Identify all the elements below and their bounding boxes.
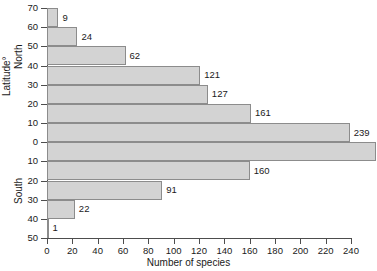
bar-value-label: 22 bbox=[79, 204, 90, 214]
bar bbox=[47, 142, 376, 161]
x-axis-tick-label: 160 bbox=[242, 246, 258, 256]
y-axis-tick bbox=[41, 66, 47, 67]
bar bbox=[47, 27, 77, 46]
bar bbox=[47, 46, 126, 65]
x-axis-tick-label: 180 bbox=[267, 246, 283, 256]
x-axis-tick-label: 100 bbox=[166, 246, 182, 256]
x-axis-tick bbox=[275, 239, 276, 244]
y-axis-tick bbox=[41, 161, 47, 162]
y-axis-tick bbox=[41, 46, 47, 47]
x-axis-tick-label: 240 bbox=[343, 246, 359, 256]
x-axis-tick-label: 200 bbox=[292, 246, 308, 256]
x-axis-tick bbox=[123, 239, 124, 244]
x-axis-tick-label: 80 bbox=[143, 246, 154, 256]
y-axis-tick bbox=[41, 123, 47, 124]
y-axis-tick-label: 60 bbox=[27, 22, 38, 32]
y-axis-tick bbox=[41, 104, 47, 105]
y-axis-tick-label: 40 bbox=[27, 61, 38, 71]
x-axis-tick-label: 120 bbox=[191, 246, 207, 256]
x-axis-tick bbox=[47, 239, 48, 244]
x-axis-tick bbox=[199, 239, 200, 244]
bar-value-label: 239 bbox=[354, 128, 370, 138]
bar bbox=[47, 85, 208, 104]
y-axis-tick-label: 10 bbox=[27, 156, 38, 166]
x-axis-tick bbox=[224, 239, 225, 244]
bar-value-label: 9 bbox=[62, 13, 67, 23]
bar-value-label: 91 bbox=[166, 185, 177, 195]
x-axis-tick bbox=[326, 239, 327, 244]
bar bbox=[47, 66, 200, 85]
x-axis-tick-label: 140 bbox=[216, 246, 232, 256]
y-axis-tick-label: 70 bbox=[27, 3, 38, 13]
bar bbox=[47, 219, 49, 238]
x-axis-tick bbox=[174, 239, 175, 244]
y-axis-tick-label: 40 bbox=[27, 214, 38, 224]
bar-value-label: 127 bbox=[212, 89, 228, 99]
bar bbox=[47, 181, 162, 200]
hemisphere-label-north: North bbox=[14, 45, 24, 69]
bar-value-label: 160 bbox=[254, 166, 270, 176]
y-axis-tick bbox=[41, 181, 47, 182]
x-axis-title: Number of species bbox=[0, 258, 377, 268]
y-axis-tick-label: 30 bbox=[27, 195, 38, 205]
y-axis-tick bbox=[41, 85, 47, 86]
y-axis-tick-label: 10 bbox=[27, 118, 38, 128]
x-axis-tick bbox=[98, 239, 99, 244]
bar-value-label: 24 bbox=[81, 32, 92, 42]
y-axis-tick-label: 30 bbox=[27, 80, 38, 90]
y-axis-tick bbox=[41, 142, 47, 143]
x-axis-tick bbox=[351, 239, 352, 244]
x-axis-tick bbox=[300, 239, 301, 244]
x-axis-tick-label: 60 bbox=[118, 246, 129, 256]
bar bbox=[47, 104, 251, 123]
y-axis-tick-label: 50 bbox=[27, 233, 38, 243]
y-axis-tick-label: 20 bbox=[27, 99, 38, 109]
bar-value-label: 62 bbox=[130, 51, 141, 61]
x-axis-tick bbox=[72, 239, 73, 244]
y-axis-tick bbox=[41, 200, 47, 201]
bar bbox=[47, 161, 250, 180]
bar-value-label: 1 bbox=[53, 223, 58, 233]
y-axis-tick-label: 20 bbox=[27, 176, 38, 186]
x-axis-tick-label: 40 bbox=[92, 246, 103, 256]
x-axis-tick-label: 20 bbox=[67, 246, 78, 256]
plot-area: 9246212112716123926016091221 bbox=[47, 8, 351, 238]
y-axis-tick bbox=[41, 8, 47, 9]
x-axis-tick-label: 220 bbox=[318, 246, 334, 256]
bar-value-label: 161 bbox=[255, 108, 271, 118]
bar bbox=[47, 200, 75, 219]
x-axis-tick bbox=[148, 239, 149, 244]
x-axis-tick-label: 0 bbox=[44, 246, 49, 256]
y-axis-title: Latitude° bbox=[2, 56, 12, 96]
y-axis-tick-label: 50 bbox=[27, 41, 38, 51]
y-axis-tick bbox=[41, 27, 47, 28]
bar-value-label: 121 bbox=[204, 70, 220, 80]
bar bbox=[47, 123, 350, 142]
x-axis-tick bbox=[250, 239, 251, 244]
y-axis-tick-label: 0 bbox=[33, 137, 38, 147]
latitude-species-bar-chart: 9246212112716123926016091221 70605040302… bbox=[0, 0, 377, 271]
y-axis-tick bbox=[41, 219, 47, 220]
bar bbox=[47, 8, 58, 27]
hemisphere-label-south: South bbox=[14, 177, 24, 203]
